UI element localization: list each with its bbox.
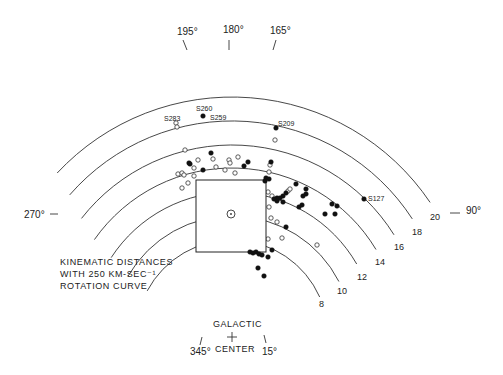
filled-source-marker bbox=[323, 212, 328, 217]
arc-label-18: 18 bbox=[412, 227, 422, 237]
longitude-label: 270° bbox=[24, 209, 45, 220]
open-source-marker bbox=[273, 138, 277, 142]
filled-source-marker bbox=[201, 114, 206, 119]
filled-source-marker bbox=[270, 248, 275, 253]
filled-source-marker bbox=[297, 205, 302, 210]
galactic-center-label-top: GALACTIC bbox=[213, 319, 262, 329]
arc-label-20: 20 bbox=[430, 212, 440, 222]
open-source-marker bbox=[192, 174, 196, 178]
longitude-tick bbox=[200, 337, 202, 345]
arc-label-16: 16 bbox=[394, 242, 404, 252]
sun-dot-icon bbox=[230, 213, 232, 215]
filled-source-marker bbox=[335, 204, 340, 209]
filled-source-marker bbox=[294, 182, 299, 187]
note-line-3: ROTATION CURVE bbox=[60, 280, 173, 292]
open-source-marker bbox=[228, 161, 232, 165]
longitude-tick bbox=[273, 40, 276, 50]
filled-source-marker bbox=[275, 199, 280, 204]
solar-box bbox=[196, 180, 266, 252]
longitude-label: 165° bbox=[270, 25, 291, 36]
note-line-2: WITH 250 KM-SEC⁻¹ bbox=[60, 268, 173, 280]
note-line-1: KINEMATIC DISTANCES bbox=[60, 256, 173, 268]
open-source-marker bbox=[211, 157, 215, 161]
open-source-marker bbox=[196, 158, 200, 162]
open-source-marker bbox=[183, 148, 187, 152]
longitude-label: 90° bbox=[466, 205, 481, 216]
filled-source-marker bbox=[362, 197, 367, 202]
filled-source-marker bbox=[301, 194, 306, 199]
filled-source-marker bbox=[304, 187, 309, 192]
galactic-map-figure: 8101214161820195°180°165°270°90°345°15°S… bbox=[0, 0, 503, 375]
filled-source-marker bbox=[281, 200, 286, 205]
source-label-s260: S260 bbox=[196, 105, 212, 112]
open-source-marker bbox=[267, 170, 271, 174]
filled-source-marker bbox=[256, 266, 261, 271]
open-source-marker bbox=[180, 186, 184, 190]
filled-source-marker bbox=[266, 255, 271, 260]
solar-neighborhood-box bbox=[196, 180, 266, 252]
arc-label-10: 10 bbox=[337, 286, 347, 296]
arc-label-8: 8 bbox=[319, 299, 324, 309]
arc-label-12: 12 bbox=[357, 272, 367, 282]
filled-source-marker bbox=[201, 168, 206, 173]
filled-source-marker bbox=[333, 212, 338, 217]
open-source-marker bbox=[233, 171, 237, 175]
open-source-marker bbox=[223, 168, 227, 172]
open-source-marker bbox=[182, 173, 186, 177]
open-source-marker bbox=[192, 166, 196, 170]
source-label-s283: S283 bbox=[164, 115, 180, 122]
filled-source-marker bbox=[242, 164, 247, 169]
arc-label-14: 14 bbox=[375, 257, 385, 267]
filled-source-marker bbox=[263, 179, 268, 184]
open-source-marker bbox=[175, 125, 179, 129]
filled-source-marker bbox=[188, 162, 193, 167]
filled-source-marker bbox=[262, 274, 267, 279]
source-label-s127: S127 bbox=[368, 195, 384, 202]
open-source-marker bbox=[186, 181, 190, 185]
longitude-tick bbox=[183, 40, 187, 50]
galactic-center-label-bottom: CENTER bbox=[215, 344, 255, 354]
longitude-label: 345° bbox=[190, 346, 211, 357]
kinematic-distance-note: KINEMATIC DISTANCES WITH 250 KM-SEC⁻¹ RO… bbox=[60, 256, 173, 292]
filled-source-marker bbox=[209, 151, 214, 156]
source-label-s259: S259 bbox=[210, 114, 226, 121]
source-label-s209: S209 bbox=[278, 120, 294, 127]
longitude-tick bbox=[264, 335, 266, 343]
open-source-marker bbox=[236, 155, 240, 159]
open-source-marker bbox=[288, 187, 292, 191]
open-source-marker bbox=[315, 243, 319, 247]
longitude-label: 195° bbox=[177, 26, 198, 37]
filled-source-marker bbox=[246, 160, 251, 165]
longitude-label: 180° bbox=[223, 24, 244, 35]
open-source-marker bbox=[275, 220, 279, 224]
filled-source-marker bbox=[269, 160, 274, 165]
open-source-marker bbox=[214, 165, 218, 169]
open-source-marker bbox=[267, 205, 271, 209]
filled-source-marker bbox=[284, 225, 289, 230]
open-source-marker bbox=[280, 236, 284, 240]
filled-source-marker bbox=[330, 202, 335, 207]
open-source-marker bbox=[269, 216, 273, 220]
filled-source-marker bbox=[260, 253, 265, 258]
longitude-label: 15° bbox=[262, 346, 277, 357]
